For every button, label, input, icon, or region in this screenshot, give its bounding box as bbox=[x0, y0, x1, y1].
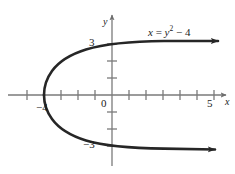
plot-canvas bbox=[0, 0, 235, 174]
x-axis-label: x bbox=[225, 97, 229, 107]
equation-equals: = bbox=[153, 26, 165, 38]
x-tick-label-5: 5 bbox=[207, 98, 213, 109]
parabola-lower-branch bbox=[44, 95, 215, 150]
equation-remainder: − 4 bbox=[173, 26, 190, 38]
equation-annotation: x = y2 − 4 bbox=[148, 27, 190, 38]
x-tick-label-neg4: −4 bbox=[36, 102, 48, 113]
y-tick-label-3: 3 bbox=[89, 37, 95, 48]
parabola-figure: y x 3 −3 0 −4 5 x = y2 − 4 bbox=[0, 0, 235, 174]
parabola-upper-branch bbox=[44, 41, 218, 95]
origin-label: 0 bbox=[101, 98, 107, 109]
y-axis-label: y bbox=[103, 17, 107, 27]
y-tick-label-neg3: −3 bbox=[83, 139, 95, 150]
